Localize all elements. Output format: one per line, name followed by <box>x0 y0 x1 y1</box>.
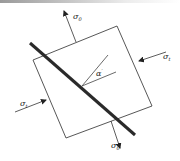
sigma-left-label: σt <box>20 99 28 109</box>
sigma-right-label: σt <box>163 52 171 62</box>
sigma-right-arrow <box>139 52 166 61</box>
angle-ray-1 <box>82 55 108 86</box>
stress-diagram: σ0 σ0 σt σt α′ <box>0 0 180 161</box>
sigma-bottom-label: σ0 <box>111 141 120 151</box>
sigma-top-label: σ0 <box>73 12 82 22</box>
angle-alpha-label: α′ <box>96 68 103 78</box>
